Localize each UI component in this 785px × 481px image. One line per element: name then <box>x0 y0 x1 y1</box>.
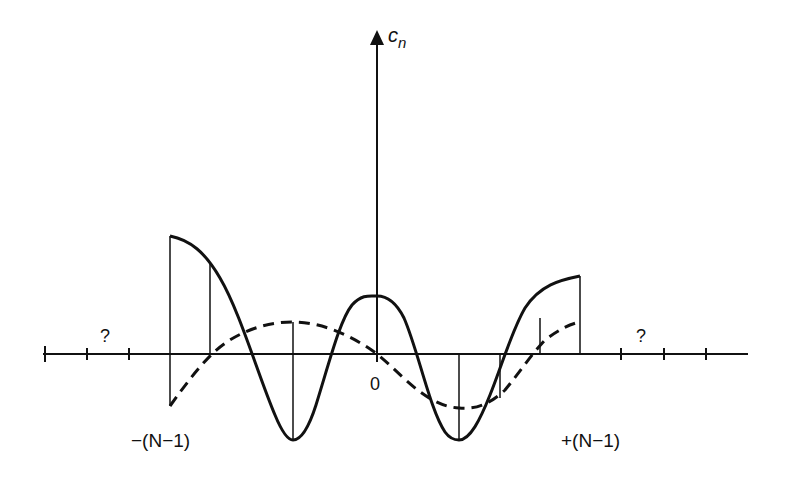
y-axis-arrow-icon <box>370 30 384 45</box>
dashed-curve <box>170 322 580 408</box>
right-question-label: ? <box>636 326 646 346</box>
y-axis-label: cn <box>388 24 406 51</box>
left-limit-label: −(N−1) <box>131 430 190 451</box>
origin-label: 0 <box>370 374 380 394</box>
coefficient-diagram: cn 0 ? ? −(N−1) +(N−1) <box>0 0 785 481</box>
right-limit-label: +(N−1) <box>561 430 620 451</box>
left-question-label: ? <box>100 326 110 346</box>
